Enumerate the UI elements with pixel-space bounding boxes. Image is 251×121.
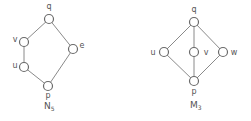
node-q bbox=[190, 18, 199, 27]
edge-q-e bbox=[49, 19, 73, 49]
node-label-w: w bbox=[231, 48, 238, 57]
node-w bbox=[219, 48, 228, 57]
node-v bbox=[20, 38, 29, 47]
node-v bbox=[190, 48, 199, 57]
node-p bbox=[190, 77, 199, 86]
node-label-e: e bbox=[80, 41, 85, 50]
node-label-q: q bbox=[191, 5, 196, 14]
node-label-p: p bbox=[45, 91, 50, 100]
node-label-v: v bbox=[204, 48, 209, 57]
diagram-title: N5 bbox=[44, 101, 55, 112]
node-label-p: p bbox=[191, 87, 196, 96]
node-e bbox=[69, 45, 78, 54]
node-label-u: u bbox=[12, 61, 17, 70]
node-label-u: u bbox=[150, 48, 155, 57]
edge-q-u bbox=[164, 22, 194, 52]
edge-q-w bbox=[194, 22, 223, 52]
node-label-v: v bbox=[13, 35, 18, 44]
node-u bbox=[20, 63, 29, 72]
node-label-q: q bbox=[46, 2, 51, 11]
n5-lattice-diagram: qvuepN5 bbox=[12, 2, 84, 112]
node-u bbox=[160, 48, 169, 57]
node-p bbox=[44, 82, 53, 91]
edge-u-p bbox=[164, 52, 194, 81]
m3-lattice-diagram: quvwpM3 bbox=[150, 5, 237, 111]
diagram-title: M3 bbox=[190, 100, 202, 111]
node-q bbox=[45, 15, 54, 24]
edge-w-p bbox=[194, 52, 223, 81]
edge-e-p bbox=[48, 49, 73, 86]
lattice-diagrams: qvuepN5 quvwpM3 bbox=[0, 0, 251, 121]
